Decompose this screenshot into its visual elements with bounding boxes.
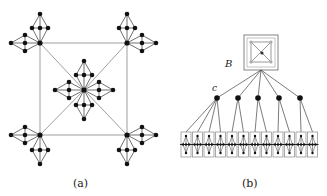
graph-node	[222, 143, 224, 145]
graph-node	[53, 88, 58, 93]
graph-node	[90, 73, 95, 78]
graph-node	[208, 143, 210, 145]
graph-node	[140, 141, 145, 146]
graph-node	[274, 143, 276, 145]
graph-node	[67, 88, 72, 93]
graph-node	[280, 143, 282, 145]
graph-node	[111, 88, 116, 93]
graph-node	[125, 12, 130, 17]
node-label-c: c	[212, 83, 217, 93]
graph-node	[303, 143, 305, 145]
graph-node	[23, 125, 28, 130]
graph-node	[38, 26, 43, 31]
graph-node	[262, 143, 264, 145]
graph-node	[277, 152, 279, 154]
graph-node	[46, 26, 51, 31]
graph-node	[30, 148, 35, 153]
graph-node	[185, 152, 187, 154]
graph-node	[185, 135, 187, 137]
graph-node	[234, 143, 236, 145]
graph-node	[291, 143, 293, 145]
caption-b: (b)	[242, 177, 258, 190]
graph-node	[249, 40, 252, 43]
graph-node	[208, 152, 210, 154]
graph-node	[314, 143, 316, 145]
graph-node	[276, 95, 282, 101]
graph-node	[140, 133, 145, 138]
graph-node	[140, 33, 145, 38]
graph-node	[74, 73, 79, 78]
panel-a-graph	[9, 12, 159, 167]
graph-node	[82, 73, 87, 78]
graph-node	[269, 40, 272, 43]
graph-node	[23, 133, 28, 138]
graph-node	[38, 162, 43, 167]
graph-node	[82, 59, 87, 64]
graph-node	[277, 143, 279, 145]
graph-node	[97, 88, 102, 93]
graph-node	[82, 103, 87, 108]
graph-node	[193, 143, 195, 145]
graph-node	[297, 143, 299, 145]
graph-node	[242, 152, 244, 154]
graph-node	[235, 95, 241, 101]
graph-node	[300, 135, 302, 137]
graph-node	[46, 148, 51, 153]
graph-node	[125, 148, 130, 153]
graph-node	[311, 152, 313, 154]
graph-node	[219, 152, 221, 154]
graph-node	[9, 133, 14, 138]
graph-node	[196, 135, 198, 137]
graph-node	[242, 135, 244, 137]
graph-node	[239, 143, 241, 145]
graph-node	[38, 148, 43, 153]
box-label-b: B	[225, 58, 232, 69]
graph-node	[74, 103, 79, 108]
graph-node	[196, 152, 198, 154]
graph-node	[154, 41, 159, 46]
graph-node	[23, 33, 28, 38]
graph-node	[277, 135, 279, 137]
graph-node	[231, 143, 233, 145]
graph-node	[133, 26, 138, 31]
caption-a: (a)	[73, 177, 88, 190]
graph-node	[23, 141, 28, 146]
graph-node	[23, 41, 28, 46]
graph-node	[269, 60, 272, 63]
graph-node	[211, 143, 213, 145]
graph-node	[188, 143, 190, 145]
graph-node	[125, 26, 130, 31]
graph-node	[216, 143, 218, 145]
graph-node	[205, 143, 207, 145]
graph-node	[260, 51, 263, 54]
graph-node	[125, 162, 130, 167]
graph-node	[117, 26, 122, 31]
graph-node	[208, 135, 210, 137]
graph-node	[311, 143, 313, 145]
graph-node	[231, 135, 233, 137]
graph-node	[199, 143, 201, 145]
graph-node	[67, 80, 72, 85]
graph-node	[288, 152, 290, 154]
graph-node	[38, 12, 43, 17]
graph-node	[249, 60, 252, 63]
graph-node	[37, 40, 42, 45]
graph-node	[140, 49, 145, 54]
graph-node	[82, 117, 87, 122]
graph-node	[140, 125, 145, 130]
graph-node	[254, 152, 256, 154]
graph-node	[90, 103, 95, 108]
graph-node	[140, 41, 145, 46]
graph-node	[67, 96, 72, 101]
panel-b-tree	[180, 35, 319, 157]
graph-node	[300, 152, 302, 154]
graph-node	[219, 143, 221, 145]
graph-node	[97, 80, 102, 85]
graph-node	[285, 143, 287, 145]
graph-node	[231, 152, 233, 154]
graph-node	[242, 143, 244, 145]
graph-node	[251, 143, 253, 145]
graph-node	[265, 143, 267, 145]
graph-node	[288, 143, 290, 145]
graph-node	[311, 135, 313, 137]
